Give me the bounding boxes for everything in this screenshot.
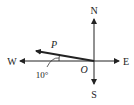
angle-leader <box>47 58 59 67</box>
vector-p <box>36 51 94 61</box>
south-label: S <box>91 89 97 100</box>
north-label: N <box>90 5 97 16</box>
origin-label: O <box>80 64 87 75</box>
east-label: E <box>123 56 129 67</box>
vector-label: P <box>50 39 57 50</box>
angle-label: 10° <box>36 70 49 80</box>
west-label: W <box>7 56 17 67</box>
angle-arc <box>59 55 60 61</box>
compass-diagram: N S W E O P 10° <box>0 0 134 105</box>
